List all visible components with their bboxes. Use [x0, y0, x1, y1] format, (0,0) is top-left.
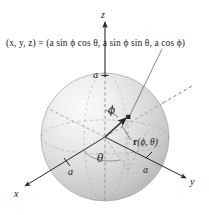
- radius-vector-label: r(ϕ, θ): [133, 138, 158, 148]
- z-radius-label: a: [93, 70, 98, 80]
- x-axis-label: x: [14, 189, 18, 199]
- phi-angle-label: ϕ: [108, 105, 115, 116]
- coordinate-formula-label: (x, y, z) = (a sin ϕ cos θ, a sin ϕ sin …: [6, 39, 185, 49]
- radius-vector-label-args: (ϕ, θ): [137, 137, 158, 147]
- figure-canvas: [0, 0, 209, 215]
- spherical-coordinates-figure: (x, y, z) = (a sin ϕ cos θ, a sin ϕ sin …: [0, 0, 209, 215]
- x-axis-hidden-extension: [163, 86, 192, 103]
- z-axis-label: z: [101, 10, 105, 20]
- x-radius-label: a: [68, 167, 73, 177]
- y-axis-label: y: [190, 177, 194, 187]
- y-radius-label: a: [143, 165, 148, 175]
- theta-angle-label: θ: [97, 153, 103, 164]
- surface-point-marker: [126, 115, 130, 119]
